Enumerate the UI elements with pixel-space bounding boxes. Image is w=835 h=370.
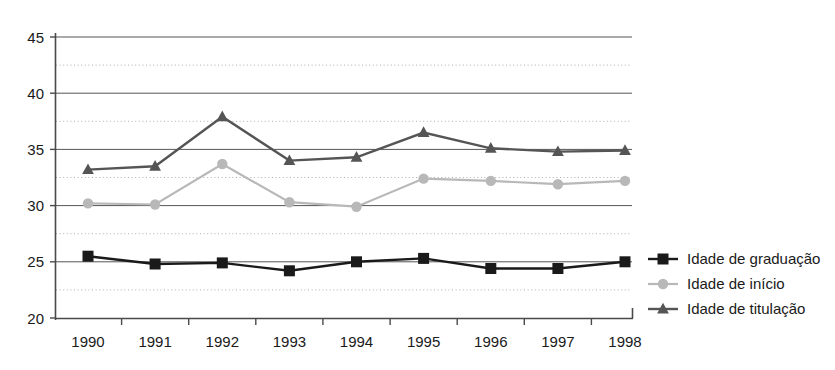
x-axis-tick-labels: 199019911992199319941995199619971998 — [71, 333, 641, 350]
y-tick-label: 35 — [27, 141, 44, 158]
legend-item: Idade de graduação — [648, 250, 820, 267]
x-tick-label: 1990 — [71, 333, 104, 350]
y-tick-label: 45 — [27, 29, 44, 46]
data-point-marker — [418, 126, 430, 137]
x-tick-label: 1992 — [206, 333, 239, 350]
data-point-marker — [284, 197, 294, 207]
data-point-marker — [553, 179, 563, 189]
chart-legend: Idade de graduaçãoIdade de inícioIdade d… — [648, 250, 820, 317]
data-point-marker — [418, 173, 428, 183]
chart-container: 202530354045 199019911992199319941995199… — [0, 0, 835, 370]
y-axis-tick-labels: 202530354045 — [27, 29, 44, 327]
data-point-marker — [620, 176, 630, 186]
series-line — [88, 164, 625, 207]
legend-marker-circle — [658, 279, 668, 289]
series-group — [82, 111, 631, 277]
data-point-marker — [83, 198, 93, 208]
legend-item-label: Idade de graduação — [687, 250, 820, 267]
data-point-marker — [351, 202, 361, 212]
x-tick-label: 1998 — [608, 333, 641, 350]
data-point-marker — [284, 265, 295, 276]
series-triangle — [82, 111, 631, 175]
y-tick-label: 30 — [27, 197, 44, 214]
data-point-marker — [351, 256, 362, 267]
x-tick-label: 1997 — [541, 333, 574, 350]
x-tick-label: 1991 — [138, 333, 171, 350]
x-tick-label: 1993 — [273, 333, 306, 350]
x-tick-label: 1996 — [474, 333, 507, 350]
x-tick-label: 1995 — [407, 333, 440, 350]
data-point-marker — [150, 259, 161, 270]
series-circle — [83, 159, 630, 212]
data-point-marker — [216, 111, 228, 122]
x-tick-label: 1994 — [340, 333, 373, 350]
y-tick-label: 20 — [27, 310, 44, 327]
data-point-marker — [217, 159, 227, 169]
legend-item-label: Idade de titulação — [687, 300, 805, 317]
legend-item-label: Idade de início — [687, 275, 785, 292]
series-square — [83, 251, 631, 277]
data-point-marker — [83, 251, 94, 262]
data-point-marker — [485, 263, 496, 274]
y-tick-label: 25 — [27, 253, 44, 270]
legend-item: Idade de início — [648, 275, 785, 292]
data-point-marker — [486, 176, 496, 186]
y-tick-label: 40 — [27, 85, 44, 102]
line-chart: 202530354045 199019911992199319941995199… — [0, 0, 835, 370]
data-point-marker — [217, 257, 228, 268]
data-point-marker — [150, 199, 160, 209]
legend-marker-square — [658, 254, 669, 265]
minor-gridlines — [56, 65, 632, 290]
data-point-marker — [620, 256, 631, 267]
major-gridlines — [56, 37, 632, 262]
data-point-marker — [552, 263, 563, 274]
legend-item: Idade de titulação — [648, 300, 805, 317]
data-point-marker — [418, 253, 429, 264]
